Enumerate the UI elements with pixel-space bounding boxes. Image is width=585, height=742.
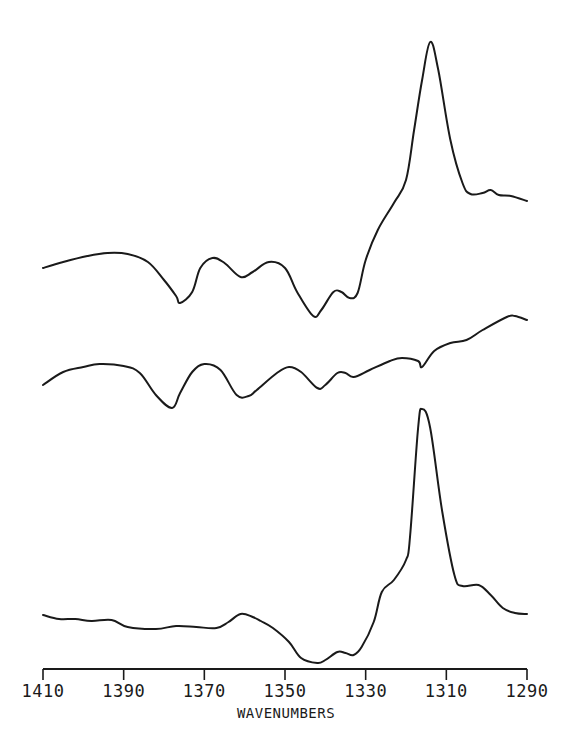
x-tick-label: 1390	[102, 681, 145, 701]
bottom-spectrum-trace	[43, 409, 527, 663]
x-tick-label: 1290	[506, 681, 549, 701]
spectra-traces	[43, 42, 527, 663]
spectra-chart: 1410139013701350133013101290 WAVENUMBERS	[0, 0, 585, 742]
x-axis-title: WAVENUMBERS	[237, 705, 335, 721]
top-spectrum-trace	[43, 42, 527, 317]
middle-spectrum-trace	[43, 315, 527, 408]
x-axis: 1410139013701350133013101290 WAVENUMBERS	[22, 669, 549, 721]
chart-canvas: 1410139013701350133013101290 WAVENUMBERS	[0, 0, 585, 742]
x-tick-label: 1350	[264, 681, 307, 701]
x-tick-label: 1370	[183, 681, 226, 701]
x-axis-ticks: 1410139013701350133013101290	[22, 669, 549, 701]
x-tick-label: 1330	[344, 681, 387, 701]
x-tick-label: 1310	[425, 681, 468, 701]
x-tick-label: 1410	[22, 681, 65, 701]
